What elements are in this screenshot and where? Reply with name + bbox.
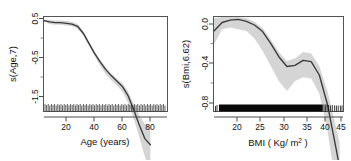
left-rug-plot bbox=[45, 104, 165, 112]
right-xtick-label-3: 35 bbox=[302, 122, 312, 132]
left-x-axis-title: Age (years) bbox=[80, 136, 129, 147]
left-panel: 0.5 -0.5 -1.5 s(Age,7) bbox=[7, 12, 168, 160]
left-xtick-label-0: 20 bbox=[61, 122, 71, 132]
figure-canvas: 0.5 -0.5 -1.5 s(Age,7) bbox=[0, 0, 351, 160]
left-ytick-label-1: -0.5 bbox=[30, 50, 40, 65]
right-xtick-label-5: 45 bbox=[336, 122, 346, 132]
right-y-axis: 0.0 -0.4 -0.8 bbox=[200, 18, 213, 111]
gam-smooth-figure: 0.5 -0.5 -1.5 s(Age,7) bbox=[0, 0, 351, 160]
right-x-axis-title: BMI ( Kg/ m2 ) bbox=[248, 137, 308, 149]
left-ytick-label-2: -1.5 bbox=[30, 89, 40, 104]
left-xtick-label-3: 80 bbox=[145, 122, 155, 132]
left-xtick-label-1: 40 bbox=[89, 122, 99, 132]
right-xtick-label-2: 30 bbox=[279, 122, 289, 132]
left-xtick-label-2: 60 bbox=[117, 122, 127, 132]
right-xtick-label-1: 25 bbox=[255, 122, 265, 132]
left-plot-frame bbox=[44, 17, 168, 112]
right-xtick-label-0: 20 bbox=[232, 122, 242, 132]
right-ytick-label-1: -0.4 bbox=[200, 55, 210, 70]
right-x-axis-title-base: BMI ( Kg/ m bbox=[248, 137, 298, 148]
right-ytick-label-2: -0.8 bbox=[200, 95, 210, 110]
right-x-axis-title-tail: ) bbox=[302, 137, 308, 148]
right-xtick-label-4: 40 bbox=[320, 122, 330, 132]
right-ytick-label-0: 0.0 bbox=[200, 18, 210, 30]
right-panel: 0.0 -0.4 -0.8 s(Bmi,6.62) bbox=[180, 17, 346, 161]
left-y-axis: 0.5 -0.5 -1.5 bbox=[30, 12, 43, 104]
left-ytick-label-0: 0.5 bbox=[30, 12, 40, 24]
left-y-axis-title: s(Age,7) bbox=[7, 46, 18, 82]
right-y-axis-title: s(Bmi,6.62) bbox=[180, 40, 191, 89]
left-x-axis: 20 40 60 80 bbox=[44, 117, 167, 132]
